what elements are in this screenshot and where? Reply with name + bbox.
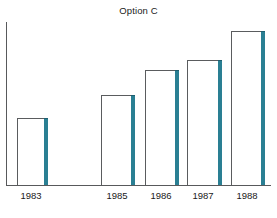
x-tick-label-1988: 1988: [236, 190, 257, 201]
y-axis-line: [6, 22, 7, 186]
bar-shadow-cap-1987: [218, 60, 222, 61]
bar-1985: [101, 95, 133, 185]
bar-chart: Option C 19831985198619871988: [0, 0, 277, 218]
x-tick-label-1983: 1983: [20, 190, 41, 201]
x-tick-label-1985: 1985: [106, 190, 127, 201]
bar-shadow-cap-1988: [261, 31, 265, 32]
x-tick-label-1987: 1987: [192, 190, 213, 201]
bar-1988: [231, 31, 263, 185]
bar-shadow-1987: [218, 61, 222, 185]
bar-shadow-1986: [175, 71, 179, 185]
bar-shadow-cap-1983: [44, 118, 48, 119]
bar-shadow-1985: [131, 96, 135, 185]
x-axis-line: [6, 185, 271, 186]
bar-1986: [145, 70, 177, 185]
bar-shadow-cap-1985: [131, 95, 135, 96]
bar-1983: [17, 118, 46, 185]
bar-shadow-1988: [261, 32, 265, 185]
plot-area: 19831985198619871988: [0, 0, 277, 218]
bar-1987: [187, 60, 220, 185]
bar-shadow-1983: [44, 119, 48, 185]
x-tick-label-1986: 1986: [150, 190, 171, 201]
bar-shadow-cap-1986: [175, 70, 179, 71]
